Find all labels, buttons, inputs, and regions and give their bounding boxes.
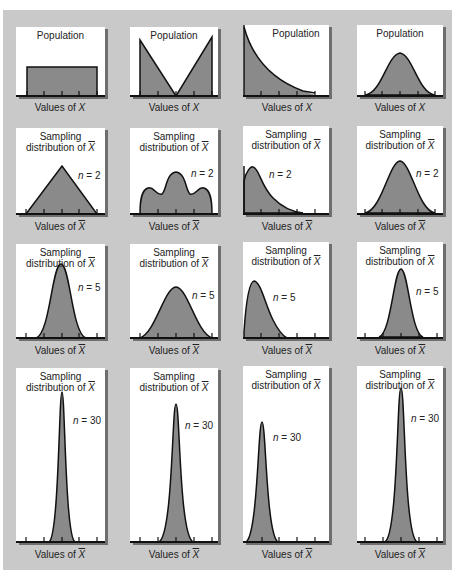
panel-sampling-n30-exponential: Samplingdistribution of X n = 30 [243, 366, 329, 543]
x-axis-label: Values of X [232, 549, 342, 560]
x-axis-label: Values of X [119, 345, 229, 356]
sample-size-label: n = 2 [269, 169, 292, 180]
panel-title: Samplingdistribution of X [357, 369, 443, 391]
panel-title: Samplingdistribution of X [16, 371, 105, 393]
panel-sampling-n5-normal: Samplingdistribution of X n = 5 [357, 242, 443, 339]
x-axis-label: Values of X [5, 345, 115, 356]
panel-title: Population [16, 30, 105, 41]
x-axis-label: Values of X [232, 345, 342, 356]
x-axis-label: Values of X [119, 221, 229, 232]
sample-size-label: n = 30 [73, 415, 101, 426]
panel-title: Samplingdistribution of X [130, 131, 218, 153]
panel-sampling-n2-normal: Samplingdistribution of X n = 2 [357, 126, 443, 215]
x-axis-label: Values of X [5, 549, 115, 560]
sample-size-label: n = 2 [416, 168, 439, 179]
sample-size-label: n = 30 [185, 420, 213, 431]
panel-population-normal: Population [357, 25, 443, 97]
x-axis-label: Values of X [345, 102, 455, 113]
panel-title: Samplingdistribution of X [16, 247, 105, 269]
panel-sampling-n5-uniform: Samplingdistribution of X n = 5 [16, 244, 105, 339]
x-axis-label: Values of X [345, 221, 455, 232]
x-axis-label: Values of X [119, 549, 229, 560]
spike-normal-distribution-curve [16, 368, 105, 543]
x-axis-label: Values of X [345, 345, 455, 356]
panel-title: Population [357, 28, 443, 39]
panel-title: Samplingdistribution of X [243, 369, 329, 391]
panel-sampling-n2-v-shape: Samplingdistribution of X n = 2 [130, 128, 218, 215]
sample-size-label: n = 5 [192, 290, 215, 301]
panel-sampling-n5-v-shape: Samplingdistribution of X n = 5 [130, 244, 218, 339]
x-axis-label: Values of X [119, 102, 229, 113]
x-axis-label: Values of X [5, 221, 115, 232]
spike-normal-distribution-curve [243, 366, 329, 543]
sample-size-label: n = 30 [273, 432, 301, 443]
panel-title: Samplingdistribution of X [243, 129, 329, 151]
panel-sampling-n30-v-shape: Samplingdistribution of X n = 30 [130, 368, 218, 543]
panel-title: Population [130, 30, 218, 41]
x-axis-label: Values of X [232, 221, 342, 232]
panel-title: Samplingdistribution of X [130, 371, 218, 393]
sample-size-label: n = 2 [78, 170, 101, 181]
panel-sampling-n2-exponential: Samplingdistribution of X n = 2 [243, 126, 329, 215]
sample-size-label: n = 5 [416, 286, 439, 297]
x-axis-label: Values of X [5, 102, 115, 113]
panel-population-exponential: Population [243, 25, 329, 97]
x-axis-label: Values of X [232, 102, 342, 113]
sample-size-label: n = 5 [273, 292, 296, 303]
panel-title: Population [263, 28, 329, 39]
sample-size-label: n = 5 [78, 282, 101, 293]
panel-sampling-n30-uniform: Samplingdistribution of X n = 30 [16, 368, 105, 543]
panel-title: Samplingdistribution of X [243, 245, 329, 267]
panel-sampling-n5-exponential: Samplingdistribution of X n = 5 [243, 242, 329, 339]
spike-normal-distribution-curve [130, 368, 218, 543]
panel-title: Samplingdistribution of X [130, 247, 218, 269]
panel-sampling-n30-normal: Samplingdistribution of X n = 30 [357, 366, 443, 543]
sample-size-label: n = 2 [191, 168, 214, 179]
sample-size-label: n = 30 [411, 413, 439, 424]
panel-population-uniform: Population [16, 27, 105, 97]
panel-title: Samplingdistribution of X [357, 129, 443, 151]
spike-normal-distribution-curve [357, 366, 443, 543]
panel-population-v-shape: Population [130, 27, 218, 97]
panel-title: Samplingdistribution of X [16, 131, 105, 153]
panel-sampling-n2-uniform: Samplingdistribution of X n = 2 [16, 128, 105, 215]
panel-title: Samplingdistribution of X [357, 245, 443, 267]
x-axis-label: Values of X [345, 549, 455, 560]
